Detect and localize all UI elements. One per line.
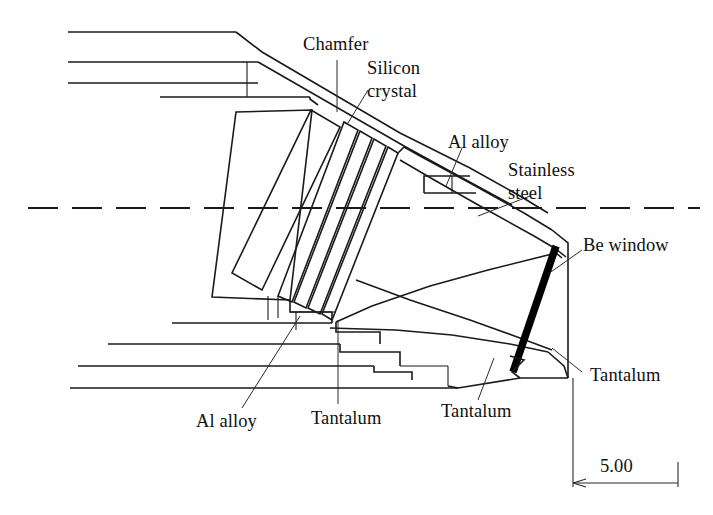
label-chamfer: Chamfer	[303, 33, 368, 56]
label-stainless-steel-line2: steel	[508, 182, 575, 205]
label-stainless-steel-line1: Stainless	[508, 159, 575, 182]
label-tantalum-right: Tantalum	[590, 364, 660, 387]
lower-stepped-profile	[290, 300, 448, 386]
label-al-alloy-bottom: Al alloy	[196, 410, 257, 433]
label-al-alloy-top: Al alloy	[448, 131, 509, 154]
label-tantalum-bottom-center: Tantalum	[311, 407, 381, 430]
tantalum-nose	[448, 356, 568, 388]
label-tantalum-bottom-right: Tantalum	[441, 400, 511, 423]
label-silicon-crystal-line1: Silicon	[367, 57, 420, 80]
label-stainless-steel: Stainless steel	[508, 159, 575, 205]
label-silicon-crystal-line2: crystal	[367, 80, 420, 103]
label-be-window: Be window	[583, 234, 669, 257]
cross-section-svg	[0, 0, 713, 515]
label-dimension-value: 5.00	[600, 455, 633, 478]
technical-drawing-canvas: Chamfer Silicon crystal Al alloy Stainle…	[0, 0, 713, 515]
inner-plate-stack	[278, 122, 398, 320]
label-silicon-crystal: Silicon crystal	[367, 57, 420, 103]
upper-left-body-lines	[68, 32, 310, 97]
